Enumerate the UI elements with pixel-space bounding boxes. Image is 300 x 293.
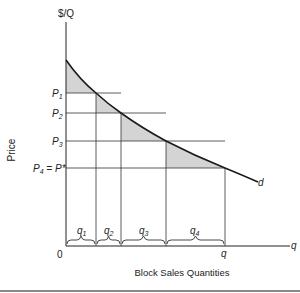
quantity-marker-label: q: [221, 248, 227, 259]
origin-label: 0: [57, 249, 63, 260]
x-axis-title: Block Sales Quantities: [134, 267, 229, 278]
y-axis-title: Price: [6, 138, 17, 161]
y-axis-unit-label: $/Q: [58, 8, 74, 19]
price-label-p3: P3: [52, 136, 63, 148]
block-braces: [67, 236, 224, 244]
demand-curve: [66, 60, 258, 182]
block-label-q4: q4: [190, 225, 200, 237]
bottom-rule: [0, 290, 300, 292]
block-label-q2: q2: [104, 225, 114, 237]
block-label-q1: q1: [77, 225, 87, 237]
price-label-p4: P4 = P*: [33, 163, 67, 175]
price-label-p1: P1: [52, 88, 63, 100]
x-axis-label: q: [291, 240, 297, 251]
block-pricing-diagram: $/Q Price P1 P2 P3 P4 = P* q1 q2 q3 q4 0…: [0, 0, 300, 293]
demand-curve-label: d: [258, 177, 264, 188]
block-label-q3: q3: [139, 225, 149, 237]
price-label-p2: P2: [52, 108, 63, 120]
block-boundaries: [96, 93, 225, 246]
